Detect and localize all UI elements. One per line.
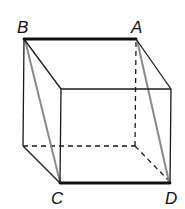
label-c: C xyxy=(51,189,64,208)
edge-b-down xyxy=(23,39,24,146)
diagonal-edge-a-to-d xyxy=(137,40,169,182)
visible-edges xyxy=(23,39,171,183)
label-d: D xyxy=(165,189,177,208)
edge-front-right xyxy=(170,89,171,183)
cube-diagram: B A C D xyxy=(0,0,185,209)
diagonal-edge-b-to-c xyxy=(25,40,60,182)
diagonal-edges xyxy=(25,40,169,182)
edge-bottom-left-depth xyxy=(23,146,60,183)
edge-front-left xyxy=(60,89,61,183)
edge-a-front xyxy=(136,39,171,89)
label-b: B xyxy=(17,18,28,37)
hidden-edge-back-right-vertical xyxy=(135,42,136,146)
edge-b-front xyxy=(24,39,61,89)
hidden-edges xyxy=(23,42,170,182)
label-a: A xyxy=(130,18,142,37)
bold-edges xyxy=(24,39,170,183)
